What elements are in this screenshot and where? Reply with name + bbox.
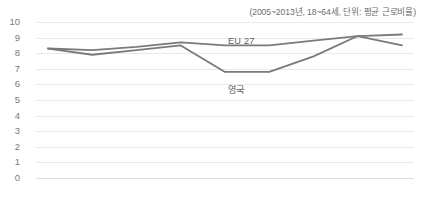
series-line-uk [48, 36, 402, 72]
series-label-eu27: EU 27 [228, 36, 255, 46]
series-label-uk: 영국 [228, 82, 244, 96]
series-line-eu27 [48, 34, 402, 50]
chart-container: (2005~2013년, 18~64세, 단위: 평균 근로비율) 109876… [0, 0, 424, 199]
series-lines-svg [0, 0, 424, 199]
